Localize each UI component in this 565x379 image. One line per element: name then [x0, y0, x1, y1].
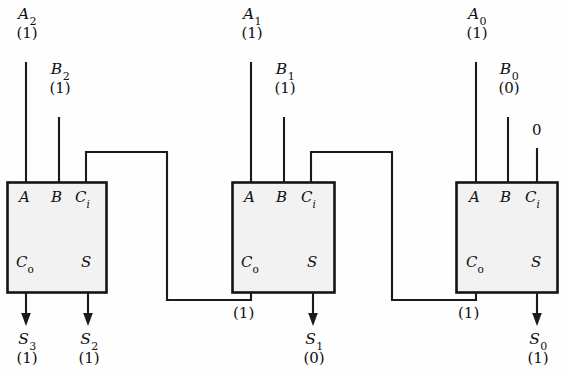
input-label-a2: A2 (1) [8, 6, 46, 41]
pin-label-co-stage-0: Co [466, 255, 484, 273]
input-label-a0: A0 (1) [458, 6, 496, 41]
input-label-a1: A1 (1) [233, 6, 271, 41]
output-label-s0: S0 (1) [519, 331, 557, 366]
pin-label-b-stage-2: B [51, 190, 62, 206]
pin-label-b-stage-1: B [276, 190, 287, 206]
arrowhead-s1 [308, 313, 318, 326]
carry-value-stage-0: (1) [458, 306, 479, 322]
pin-label-b-stage-0: B [500, 190, 511, 206]
carry-value-stage-1: (1) [233, 306, 254, 322]
pin-label-ci-stage-0: Ci [525, 190, 540, 208]
output-label-s2: S2 (1) [70, 331, 108, 366]
input-label-b2: B2 (1) [41, 61, 79, 96]
output-label-s1: S1 (0) [295, 331, 333, 366]
pin-label-s-stage-2: S [81, 255, 91, 271]
pin-label-ci-stage-1: Ci [301, 190, 316, 208]
arrowhead-s0 [532, 313, 542, 326]
pin-label-s-stage-0: S [531, 255, 541, 271]
ripple-carry-adder-diagram: A2 (1) B2 (1) A B Ci Co S S3 (1) S2 (1) … [0, 0, 565, 379]
carry-in-constant-label: 0 [532, 123, 542, 139]
pin-label-co-stage-1: Co [241, 255, 259, 273]
input-label-b1: B1 (1) [266, 61, 304, 96]
pin-label-a-stage-0: A [469, 190, 480, 206]
input-label-b0: B0 (0) [490, 61, 528, 96]
arrowhead-s2 [83, 313, 93, 326]
pin-label-ci-stage-2: Ci [75, 190, 90, 208]
pin-label-co-stage-2: Co [16, 255, 34, 273]
arrowhead-s3 [21, 313, 31, 326]
carry-wire-stage1-to-stage2 [86, 152, 251, 300]
pin-label-s-stage-1: S [307, 255, 317, 271]
pin-label-a-stage-1: A [244, 190, 255, 206]
pin-label-a-stage-2: A [19, 190, 30, 206]
output-label-s3: S3 (1) [8, 331, 46, 366]
